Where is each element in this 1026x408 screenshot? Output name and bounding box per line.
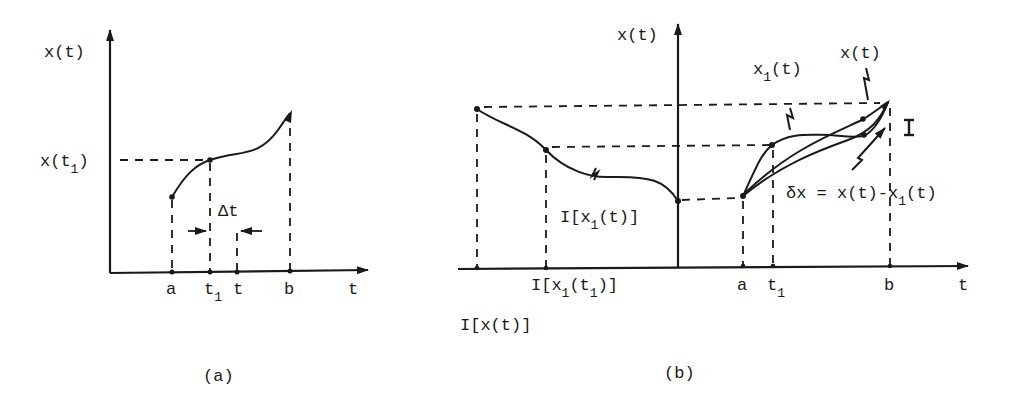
tick-t1-b <box>771 264 776 269</box>
guide-bottom <box>682 198 740 200</box>
tick-a-b <box>741 264 746 269</box>
point-image-end <box>675 198 681 204</box>
caption-b: (b) <box>664 364 695 383</box>
tick-t <box>235 270 240 275</box>
point-a-start <box>169 194 175 200</box>
point-t1 <box>207 157 213 163</box>
delta-t-label: Δt <box>218 202 238 221</box>
curve-label-x: x(t) <box>840 44 881 63</box>
point-x-end <box>860 116 866 122</box>
curve-image-x1 <box>477 109 678 201</box>
tick-label-image-t1: I[x1(t1)] <box>531 276 618 301</box>
tick-label-t: t <box>233 280 243 299</box>
figure-b: x(t) x1(t) x(t) I[x1(t)] δx = x(t)-x1(t)… <box>458 24 968 383</box>
pointer-x1-label <box>787 108 793 130</box>
curve-arrowhead-b <box>880 100 890 111</box>
tick-label-t1-b: t1 <box>767 276 785 301</box>
point-image-t1 <box>543 147 549 153</box>
image-label-x1: I[x1(t)] <box>560 208 639 233</box>
tick-label-image-x: I[x(t)] <box>460 316 531 335</box>
tick-label-b-b: b <box>884 276 894 295</box>
tick-t1 <box>208 270 213 275</box>
y-axis-label-a: x(t) <box>44 43 85 62</box>
tick-label-b: b <box>284 280 294 299</box>
curve-label-x1: x1(t) <box>753 60 802 85</box>
pointer-delta <box>852 128 885 170</box>
pointer-x-label <box>864 68 869 100</box>
guide-top <box>484 103 880 107</box>
tick-label-a-b: a <box>737 276 747 295</box>
figure-canvas: x(t) x(t1) Δt a t1 t b t (a) <box>0 0 1026 408</box>
delta-x-formula: δx = x(t)-x1(t) <box>786 184 937 209</box>
tick-image-x <box>475 266 480 271</box>
figure-a: x(t) x(t1) Δt a t1 t b t (a) <box>40 30 368 386</box>
point-a-b <box>740 193 746 199</box>
delta-x-bracket <box>904 120 914 135</box>
x-axis-label-a: t <box>348 280 358 299</box>
tick-b-b <box>888 264 893 269</box>
x-axis-label-b: t <box>958 276 968 295</box>
point-x1-end <box>861 132 867 138</box>
tick-image-t1 <box>544 266 549 271</box>
tick-label-a: a <box>166 280 176 299</box>
caption-a: (a) <box>203 367 234 386</box>
curve-x-a <box>172 113 290 197</box>
tick-a <box>170 270 175 275</box>
pointer-image-label <box>592 168 598 180</box>
tick-label-t1: t1 <box>204 280 222 305</box>
point-image-start <box>474 106 480 112</box>
y-axis-label-b: x(t) <box>617 26 658 45</box>
guide-mid <box>552 145 770 147</box>
tick-b <box>288 269 293 274</box>
y-marker-label-a: x(t1) <box>40 152 89 177</box>
